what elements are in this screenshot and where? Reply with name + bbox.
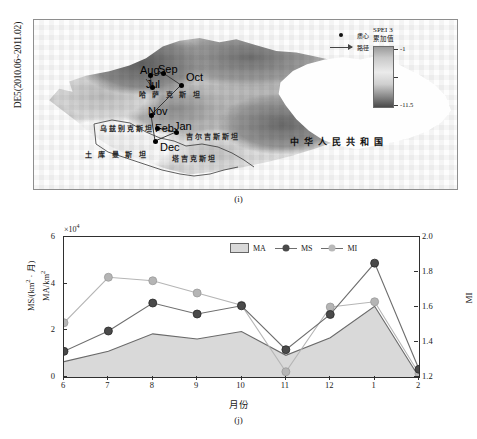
marker-mi-9 (193, 289, 201, 297)
centroid-dot-dec (153, 139, 158, 144)
marker-ms-10 (238, 302, 246, 310)
map-label-china: 中华人民共和国 (290, 135, 388, 148)
line-marker-icon-ms (275, 248, 297, 249)
marker-ms-8 (149, 299, 157, 307)
y-left-tickmark (63, 236, 67, 237)
figure-panel-chart: ×104 MS/(km2 · 月) MA/km2 MI 02461.21.41.… (0, 215, 477, 439)
marker-mi-8 (149, 277, 157, 285)
x-tick-label: 11 (275, 380, 295, 390)
x-tick-label: 2 (408, 380, 428, 390)
marker-mi-1 (371, 298, 379, 306)
y-exponent-power: 4 (77, 223, 80, 229)
month-label-aug: Aug (140, 64, 160, 76)
y-right-tickmark (414, 271, 418, 272)
series-area-ma-fill (64, 306, 419, 377)
y-right-tick-label: 1.4 (422, 336, 448, 346)
y-label-line2-sup: 2 (39, 271, 46, 274)
map-label-kyrgyzstan: 吉尔吉斯斯坦 (186, 131, 240, 141)
spei-colorbar: SPEI 3 累加值 -1 -11.5 (373, 26, 449, 108)
map-legend: 质心 路径 (330, 29, 369, 53)
y-left-tick-label: 4 (33, 278, 55, 288)
map-label-turkmenistan: 土 库 曼 斯 坦 (85, 149, 148, 159)
marker-ms-12 (326, 310, 334, 318)
x-tick-label: 10 (231, 380, 251, 390)
y-right-tick-label: 1.6 (422, 301, 448, 311)
plot-area (63, 236, 420, 378)
map-label-uzbekistan: 乌兹别克斯坦 (100, 123, 154, 133)
y-left-tick-label: 2 (33, 324, 55, 334)
chart-svg (64, 237, 419, 377)
panel-j-caption: (j) (0, 415, 477, 425)
legend-path-label: 路径 (357, 43, 369, 52)
y-right-tick-label: 2.0 (422, 231, 448, 241)
map-canvas: JulAugSepOctNovDecJanFeb 哈 萨 克 斯 坦乌兹别克斯坦… (33, 19, 458, 190)
colorbar-title: SPEI 3 (373, 26, 449, 35)
marker-mi-7 (104, 273, 112, 281)
x-tick-label: 12 (319, 380, 339, 390)
month-label-dec: Dec (160, 141, 180, 153)
map-label-kazakhstan: 哈 萨 克 斯 坦 (139, 89, 202, 99)
month-label-nov: Nov (148, 105, 168, 117)
marker-ms-6 (64, 347, 68, 355)
legend-item-ma: MA (230, 243, 266, 253)
colorbar-max-label: -1 (400, 45, 405, 52)
y-left-tickmark (63, 329, 67, 330)
y-right-tickmark (414, 341, 418, 342)
month-label-sep: Sep (158, 63, 178, 75)
chart-legend: MA MS MI (230, 243, 357, 253)
marker-mi-11 (282, 368, 290, 376)
line-marker-icon-mi (321, 248, 343, 249)
area-swatch-icon (230, 243, 249, 253)
y-right-tickmark (414, 236, 418, 237)
legend-row-path: 路径 (330, 41, 369, 53)
panel-i-side-label: DE5(2010.06~2011.02) (13, 0, 23, 135)
y-axis-right-label: MI (464, 278, 474, 318)
marker-ms-1 (371, 259, 379, 267)
marker-ms-11 (282, 346, 290, 354)
y-label-line1-sup: 2 (24, 280, 31, 283)
x-axis-label: 月份 (0, 397, 477, 411)
arrow-right-icon (330, 47, 352, 48)
y-right-tickmark (414, 306, 418, 307)
month-label-oct: Oct (186, 71, 203, 83)
legend-label-ms: MS (301, 244, 313, 253)
x-tick-label: 7 (97, 380, 117, 390)
x-tick-label: 8 (142, 380, 162, 390)
legend-centroid-label: 质心 (357, 31, 369, 40)
month-label-feb: Feb (155, 122, 174, 134)
colorbar-gradient: -1 -11.5 (373, 46, 394, 108)
marker-ms-9 (193, 310, 201, 318)
filled-dot-icon (330, 33, 352, 37)
marker-mi-12 (326, 303, 334, 311)
x-tick-label: 1 (364, 380, 384, 390)
legend-label-ma: MA (253, 244, 266, 253)
centroid-dot-oct (179, 83, 184, 88)
x-tick-label: 6 (53, 380, 73, 390)
colorbar-min-label: -11.5 (400, 101, 413, 108)
legend-item-ms: MS (275, 244, 313, 253)
y-left-tick-label: 0 (33, 371, 55, 381)
colorbar-subtitle: 累加值 (373, 35, 449, 44)
legend-item-mi: MI (321, 244, 357, 253)
y-label-line1-tail: · 月) (26, 261, 36, 280)
y-exponent-base: ×10 (64, 225, 77, 234)
map-label-tajikistan: 塔吉克斯坦 (172, 153, 217, 163)
panel-i-caption: (i) (0, 194, 477, 204)
y-right-tick-label: 1.8 (422, 266, 448, 276)
figure-panel-map: DE5(2010.06~2011.02) JulAugSepOctNovDecJ… (0, 0, 477, 215)
legend-row-centroid: 质心 (330, 29, 369, 41)
y-left-tick-label: 6 (33, 231, 55, 241)
legend-label-mi: MI (347, 244, 357, 253)
marker-ms-7 (104, 327, 112, 335)
y-axis-exponent-label: ×104 (64, 223, 80, 234)
x-tick-label: 9 (186, 380, 206, 390)
y-left-tickmark (63, 283, 67, 284)
